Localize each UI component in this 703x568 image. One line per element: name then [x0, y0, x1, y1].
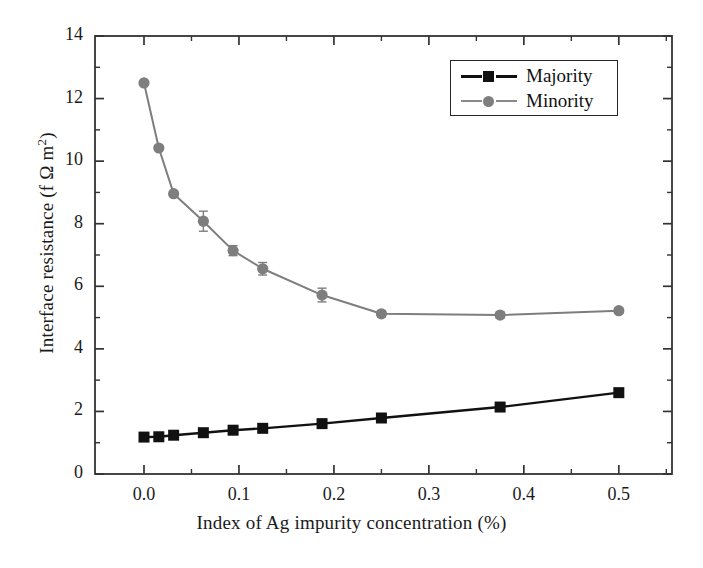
data-point-marker	[228, 425, 239, 436]
legend: Majority Minority	[450, 60, 618, 116]
data-point-marker	[613, 387, 624, 398]
data-point-marker	[257, 423, 268, 434]
data-point-marker	[495, 402, 506, 413]
y-axis-title-container: Interface resistance (f Ω m2)	[34, 24, 58, 462]
x-tick-label: 0.2	[309, 484, 359, 505]
x-tick-label: 0.3	[404, 484, 454, 505]
legend-swatch-majority	[458, 65, 520, 87]
x-tick-label: 0.1	[214, 484, 264, 505]
data-series	[138, 77, 624, 442]
data-point-marker	[198, 427, 209, 438]
data-point-marker	[198, 216, 209, 227]
x-tick-label: 0.5	[594, 484, 644, 505]
legend-swatch-minority	[458, 90, 520, 112]
legend-label-minority: Minority	[520, 90, 594, 112]
data-point-marker	[376, 412, 387, 423]
chart-figure: 02468101214 0.00.10.20.30.40.5 Interface…	[0, 0, 703, 568]
square-marker-icon	[483, 71, 494, 82]
circle-marker-icon	[483, 96, 494, 107]
data-point-marker	[317, 418, 328, 429]
x-tick-label: 0.4	[499, 484, 549, 505]
y-axis-title: Interface resistance (f Ω m2)	[34, 132, 58, 354]
x-axis-title: Index of Ag impurity concentration (%)	[0, 512, 703, 534]
data-point-marker	[316, 289, 327, 300]
y-tick-label: 0	[43, 462, 83, 483]
data-point-marker	[153, 431, 164, 442]
legend-item-majority: Majority	[451, 63, 619, 89]
data-point-marker	[168, 188, 179, 199]
legend-item-minority: Minority	[451, 88, 619, 114]
legend-label-majority: Majority	[520, 65, 593, 87]
data-point-marker	[153, 142, 164, 153]
series-majority	[139, 387, 625, 442]
y-axis-title-superscript: 2	[34, 139, 49, 146]
data-point-marker	[613, 305, 624, 316]
data-point-marker	[495, 309, 506, 320]
data-point-marker	[168, 430, 179, 441]
data-point-marker	[139, 432, 150, 443]
x-tick-label: 0.0	[119, 484, 169, 505]
data-point-marker	[138, 77, 149, 88]
data-point-marker	[376, 308, 387, 319]
series-line	[144, 83, 619, 315]
data-point-marker	[227, 245, 238, 256]
data-point-marker	[257, 263, 268, 274]
